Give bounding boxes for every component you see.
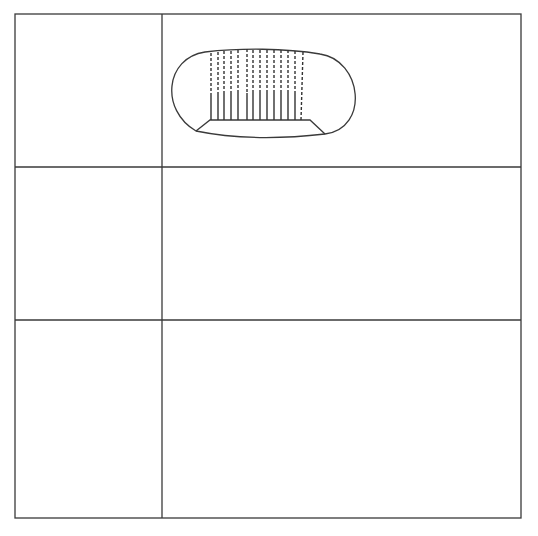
segment-stripes (211, 49, 303, 120)
table-grid (15, 14, 521, 518)
embryo-wild-type (172, 49, 356, 137)
embryo-diagram (0, 0, 538, 536)
